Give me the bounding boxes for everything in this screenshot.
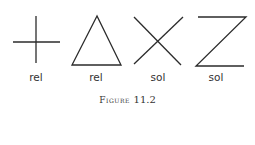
- caption-word: Figure: [99, 95, 130, 105]
- triangle-label: rel: [76, 71, 116, 83]
- figure-caption: Figure 11.2: [0, 94, 255, 106]
- caption-number: 11.2: [134, 94, 156, 105]
- triangle-shape: [72, 16, 121, 65]
- cross-label: rel: [16, 71, 56, 83]
- x-shape: [134, 17, 183, 65]
- x-shape-label: sol: [138, 71, 178, 83]
- z-shape-label: sol: [196, 71, 236, 83]
- cross-shape: [13, 16, 60, 63]
- z-shape: [196, 17, 246, 66]
